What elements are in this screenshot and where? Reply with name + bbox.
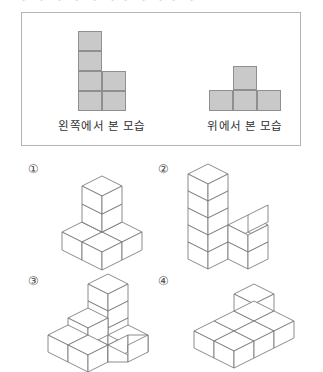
left-view-cell <box>78 71 102 91</box>
option-3[interactable]: ③ <box>28 272 158 370</box>
option-1[interactable]: ① <box>28 160 158 265</box>
option-4[interactable]: ④ <box>158 272 303 370</box>
top-view-cell <box>209 90 233 111</box>
left-view-cell <box>78 51 102 71</box>
option-3-figure <box>42 272 160 370</box>
option-1-figure <box>40 160 158 265</box>
option-3-marker: ③ <box>28 275 39 287</box>
left-view-cell <box>78 31 102 51</box>
top-view-cell <box>257 90 281 111</box>
left-view-caption: 왼쪽에서 본 모습 <box>42 117 162 133</box>
top-view-cell <box>233 90 257 111</box>
views-panel: 왼쪽에서 본 모습 위에서 본 모습 <box>21 12 301 146</box>
clipped-header-strip: ・ ・ ・ ・ ・ ・・ ・ ・・ ・ <box>0 0 323 9</box>
option-2[interactable]: ② <box>158 160 293 265</box>
option-2-figure <box>172 160 290 265</box>
left-view-cell <box>102 71 126 91</box>
left-view-cell <box>78 91 102 111</box>
top-view-caption: 위에서 본 모습 <box>185 117 305 133</box>
option-4-figure <box>172 272 300 370</box>
top-view-cell <box>233 66 257 90</box>
clipped-header-text: ・ ・ ・ ・ ・ ・・ ・ ・・ ・ <box>18 0 199 7</box>
option-2-marker: ② <box>158 163 169 175</box>
option-4-marker: ④ <box>158 275 169 287</box>
option-1-marker: ① <box>28 163 39 175</box>
left-view-cell <box>102 91 126 111</box>
